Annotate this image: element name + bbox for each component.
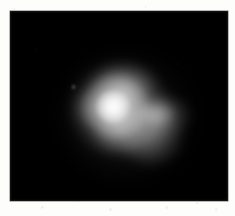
north-shoulder-region <box>92 65 156 105</box>
companion-point-source <box>71 84 76 90</box>
detector-pixel-grid <box>10 11 228 201</box>
outer-glow-region <box>58 51 200 181</box>
astronomical-image-frame <box>10 11 228 201</box>
main-envelope-region <box>72 63 168 155</box>
figure-page <box>0 0 235 216</box>
west-extension-region <box>72 89 114 129</box>
east-lobe-region <box>128 93 190 139</box>
figure-caption <box>10 202 228 216</box>
southeast-lobe-region <box>117 110 189 172</box>
sky-background-noise <box>10 11 228 201</box>
east-ridge-region <box>138 101 176 127</box>
core-peak-region <box>96 91 130 123</box>
nebulous-object <box>10 11 228 201</box>
core-halo-region <box>82 74 148 138</box>
south-foot-region <box>94 115 148 153</box>
frame-edge-softening <box>10 11 228 201</box>
